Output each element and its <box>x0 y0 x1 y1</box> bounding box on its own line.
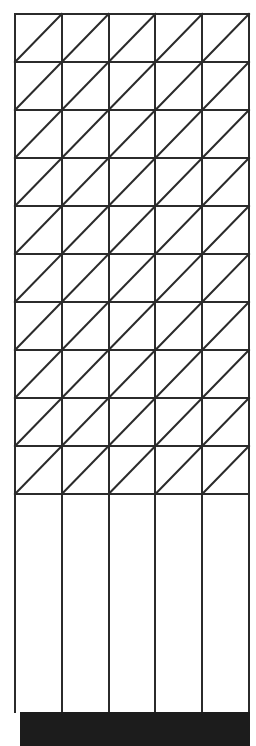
solid-dark-footer-bar <box>20 712 250 746</box>
figure-canvas <box>0 0 256 746</box>
figure-root <box>0 0 256 746</box>
